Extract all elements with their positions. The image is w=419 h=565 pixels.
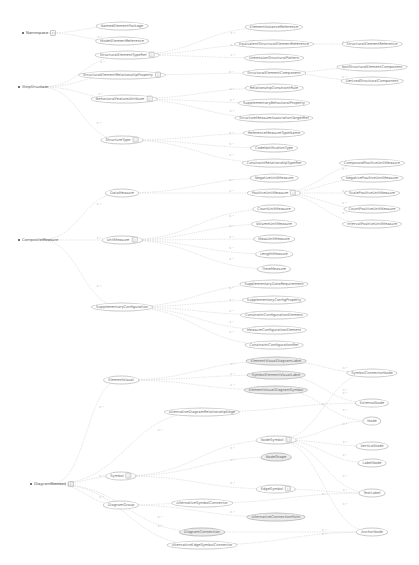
class-node-label: SupplementaryDataRequirement (244, 282, 303, 286)
class-node[interactable]: DataMeasure (105, 189, 139, 198)
class-node[interactable]: AnchorNode (356, 528, 388, 537)
class-node[interactable]: DerivedStructuralComponent (341, 77, 404, 86)
class-node[interactable]: MassUnitMeasure (253, 235, 295, 244)
class-node[interactable]: RelationshipConstraintRule (245, 84, 304, 93)
highlighted-class-node[interactable]: ElementVisualDiagramLabel (246, 357, 307, 366)
root-node[interactable]: StepStructure (18, 85, 48, 89)
highlighted-class-node[interactable]: NodeShape (261, 453, 292, 462)
class-node-label: Node (367, 419, 376, 423)
class-node[interactable]: ElementVisual (103, 376, 139, 385)
class-node[interactable]: StructureType[] (101, 136, 144, 145)
expand-toggle-icon[interactable]: [] (148, 52, 154, 58)
class-node[interactable]: StructuralElementRelationshipProperty[] (78, 71, 166, 80)
highlighted-class-node[interactable]: ElementVisualDiagramSymbol (244, 386, 308, 395)
root-node[interactable]: DiagramElement[] (30, 482, 74, 486)
class-node[interactable]: Node (362, 417, 381, 426)
class-node[interactable]: NonStructuralElementComponent (337, 63, 408, 72)
class-node[interactable]: ConstraintConfigurationElement (240, 311, 308, 320)
root-node[interactable]: Namespace[] (22, 31, 56, 35)
edge-multiplicity-label: 0..* (229, 320, 234, 323)
class-node[interactable]: StructuralElementTypeRef[] (95, 51, 160, 60)
class-node[interactable]: VerticalNode (356, 442, 389, 451)
class-node[interactable]: VolumeUnitMeasure (251, 220, 297, 229)
edge-multiplicity-label: 0..* (229, 131, 234, 134)
class-node-label: TextLabel (364, 491, 381, 495)
class-node[interactable]: EquivalentStructuralElementReference (234, 40, 314, 49)
edge-multiplicity-label: 0..* (230, 482, 235, 485)
class-node-label: TimeMeasure (262, 267, 286, 271)
expand-toggle-icon[interactable]: [] (50, 30, 56, 36)
class-node-label: AlternativeEdgeSymbolConnector (172, 543, 233, 547)
class-node[interactable]: PositiveUnitMeasure[] (247, 189, 301, 198)
edge-multiplicity-label: 0..* (230, 510, 235, 513)
class-node[interactable]: ReferenceMeasureTypeName (243, 129, 305, 138)
class-node[interactable]: TextLabel (359, 489, 386, 498)
edge-multiplicity-label: 0..* (342, 168, 347, 171)
class-node[interactable]: UnitMeasure[] (102, 236, 143, 245)
class-node-label: StructureType (106, 138, 131, 142)
class-node[interactable]: IntervalPositiveUnitMeasure (342, 220, 402, 229)
edge-multiplicity-label: 0..* (99, 475, 104, 478)
class-node[interactable]: NamedElementPackage (96, 22, 149, 31)
class-node[interactable]: ExternalNode (355, 399, 389, 408)
class-node[interactable]: EdgeSymbol[] (256, 485, 296, 494)
highlighted-class-node[interactable]: DiagramConnection (179, 528, 225, 537)
class-node[interactable]: TimeMeasure (257, 265, 291, 274)
class-node-label: DimensionStructuralPattern (249, 56, 299, 60)
class-node[interactable]: CodeNotificationType (250, 144, 298, 153)
edge-multiplicity-label: 0..* (97, 122, 102, 125)
root-node-label: DiagramElement (34, 481, 66, 486)
class-node[interactable]: SymbolConnectorNode (346, 369, 397, 378)
class-node[interactable]: CountPositiveUnitMeasure (343, 205, 400, 214)
class-node[interactable]: BehavioralFeatureAttribute[] (91, 95, 158, 104)
class-node[interactable]: SupplementaryConfigProperty (242, 296, 306, 305)
root-node[interactable]: CompositeMeasure (18, 238, 58, 242)
class-node[interactable]: StructuralElementComponent (242, 69, 306, 78)
expand-toggle-icon[interactable]: [] (285, 486, 291, 492)
class-node[interactable]: SupplementaryBehavioralProperty (238, 99, 310, 108)
class-node-label: NodeSymbol (261, 438, 284, 442)
expand-toggle-icon[interactable]: [] (126, 473, 132, 479)
expand-toggle-icon[interactable]: [] (290, 190, 296, 196)
class-node[interactable]: ModelElementReference (95, 37, 149, 46)
edge-multiplicity-label: 0..* (230, 109, 235, 112)
class-node[interactable]: LengthMeasure (255, 250, 293, 259)
expand-toggle-icon[interactable]: [] (131, 237, 137, 243)
class-node[interactable]: AlternativeDiagramRelationshipEdge (164, 408, 240, 417)
class-node[interactable]: ConstraintConfigurationRef (245, 341, 304, 350)
edge-multiplicity-label: 0..* (322, 402, 327, 405)
class-node[interactable]: CountUnitMeasure (252, 205, 295, 214)
highlighted-class-node[interactable]: SymbolElementVisualLabel (247, 371, 306, 380)
root-node-label: StepStructure (22, 84, 48, 89)
class-node[interactable]: ScalePositiveUnitMeasure (344, 189, 400, 198)
class-node[interactable]: Symbol[] (105, 472, 136, 481)
expand-toggle-icon[interactable]: [] (68, 481, 74, 487)
class-node[interactable]: SupplementaryDataRequirement (239, 280, 308, 289)
class-node-label: ElementVisualDiagramLabel (251, 359, 302, 363)
expand-toggle-icon[interactable]: [] (155, 72, 161, 78)
class-node[interactable]: StructureMeasureAssociationTargetRef (234, 114, 313, 123)
class-node[interactable]: LabelNode (357, 459, 386, 468)
class-node-label: AlternativeDiagramRelationshipEdge (169, 410, 235, 414)
class-node[interactable]: SupplementaryConfiguration (91, 303, 153, 312)
expand-toggle-icon[interactable]: [] (146, 96, 152, 102)
highlighted-class-node[interactable]: AlternativeConnectionPoint (247, 513, 306, 522)
class-node[interactable]: AlternativeSymbolConnector (171, 499, 233, 508)
class-node-label: DiagramConnection (184, 530, 220, 534)
class-node[interactable]: CompoundPositiveUnitMeasure (339, 159, 405, 168)
class-node-label: AlternativeSymbolConnector (176, 501, 228, 505)
class-node[interactable]: ElementInstanceReference (245, 23, 303, 32)
class-node[interactable]: DimensionStructuralPattern (244, 54, 304, 63)
class-node-label: StructuralElementComponent (247, 71, 301, 75)
expand-toggle-icon[interactable]: [] (133, 137, 139, 143)
class-node[interactable]: NodeSymbol[] (256, 436, 297, 445)
class-node[interactable]: NegativeUnitMeasure (250, 174, 299, 183)
class-node[interactable]: NegativePositiveUnitMeasure (341, 174, 404, 183)
class-node-label: CountUnitMeasure (257, 207, 290, 211)
expand-toggle-icon[interactable]: [] (285, 437, 291, 443)
class-node[interactable]: ConstraintRelationshipTypeRef (242, 159, 307, 168)
class-node[interactable]: DiagramGroup (103, 501, 139, 510)
class-node[interactable]: StructuralElementReference (342, 40, 403, 49)
class-node[interactable]: MeasureConfigurationElement (242, 326, 307, 335)
class-node[interactable]: AlternativeEdgeSymbolConnector (167, 541, 238, 550)
